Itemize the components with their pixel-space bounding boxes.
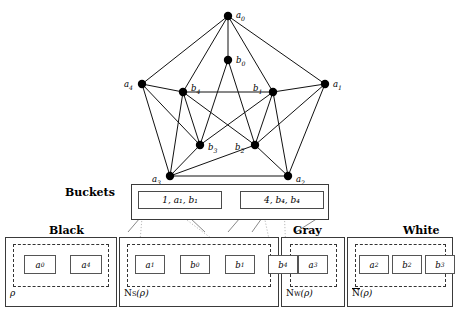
graph-vertex-a3 [166,172,174,180]
group-header-white: White [403,224,440,237]
bucket-cell-2[interactable]: 4, b₄, b₄ [240,191,324,209]
list-item-black-a0[interactable]: a0 [24,255,56,274]
graph-vertex-label-b4: b4 [191,83,200,95]
list-item-ns-rho-b4[interactable]: b4 [268,255,298,274]
list-item-ns-rho-a1[interactable]: a1 [135,255,165,274]
graph-vertex-b4 [179,88,187,96]
bucket-cell-1[interactable]: 1, a₁, b₁ [138,191,222,209]
group-footer-gray: NW(ρ) [286,288,313,298]
graph-vertex-label-b3: b3 [208,142,217,154]
list-item-white-b3[interactable]: b3 [425,255,455,274]
group-footer-black: ρ [10,288,15,298]
list-item-gray-a3[interactable]: a3 [298,255,328,274]
graph-vertex-a2 [284,172,292,180]
graph-vertex-label-b0: b0 [236,55,245,67]
graph-vertex-a0 [224,12,232,20]
graph-vertex-label-b1: b1 [253,83,262,95]
graph-vertex-label-b2: b2 [235,142,244,154]
graph-vertex-label-a4: a4 [124,79,133,91]
list-item-black-a4[interactable]: a4 [70,255,102,274]
list-item-white-a2[interactable]: a2 [359,255,389,274]
group-footer-white: N(ρ) [352,288,372,298]
figure-canvas: a0a1a2a3a4b0b1b2b3b4 Buckets 1, a₁, b₁ 4… [0,0,456,322]
graph-vertex-a1 [321,80,329,88]
graph-vertex-b3 [196,141,204,149]
graph-vertex-b2 [251,141,259,149]
graph-nodes [138,12,329,180]
graph-vertex-b1 [269,88,277,96]
list-item-white-b2[interactable]: b2 [392,255,422,274]
graph-edges [142,16,325,176]
buckets-frame: 1, a₁, b₁ 4, b₄, b₄ [131,184,329,220]
graph-vertex-b0 [224,56,232,64]
list-item-ns-rho-b0[interactable]: b0 [180,255,210,274]
group-header-black: Black [49,224,84,237]
graph-vertex-label-a1: a1 [333,79,342,91]
graph-vertex-label-a0: a0 [236,10,245,22]
group-header-gray: Gray [293,224,322,237]
group-footer-ns-rho: NS(ρ) [124,288,149,298]
list-item-ns-rho-b1[interactable]: b1 [225,255,255,274]
graph-vertex-a4 [138,80,146,88]
buckets-title: Buckets [65,186,115,199]
